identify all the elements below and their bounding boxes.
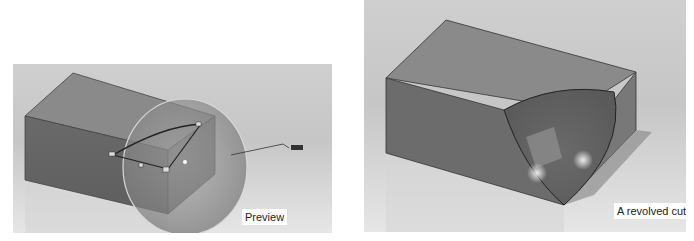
faded-text-region [0,0,350,60]
revolved-cut-caption: A revolved cut [614,203,686,219]
preview-figure: Preview [13,64,332,233]
preview-block-drawing [13,64,332,233]
revolved-cut-figure: A revolved cut [364,0,686,232]
revolved-cut-block-drawing [364,0,686,232]
preview-caption: Preview [242,209,287,225]
